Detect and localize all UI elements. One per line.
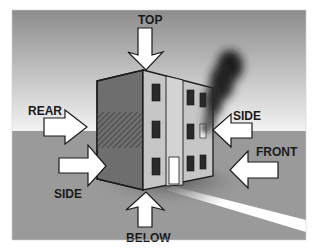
door xyxy=(169,157,179,184)
window xyxy=(200,155,206,169)
window xyxy=(187,124,194,139)
label-side-right: SIDE xyxy=(233,109,261,123)
six-sides-diagram: TOP REAR SIDE SIDE FRONT BELOW xyxy=(0,0,318,252)
window xyxy=(152,158,160,175)
window xyxy=(187,156,194,171)
building xyxy=(97,70,213,190)
fire-flame xyxy=(202,123,208,133)
label-top: TOP xyxy=(138,13,162,27)
label-front: FRONT xyxy=(256,145,298,159)
label-below: BELOW xyxy=(126,231,171,245)
hatched-band xyxy=(97,112,143,148)
window xyxy=(152,84,160,101)
window xyxy=(187,90,194,105)
label-side-left: SIDE xyxy=(54,187,82,201)
label-rear: REAR xyxy=(28,104,62,118)
window xyxy=(152,121,160,138)
